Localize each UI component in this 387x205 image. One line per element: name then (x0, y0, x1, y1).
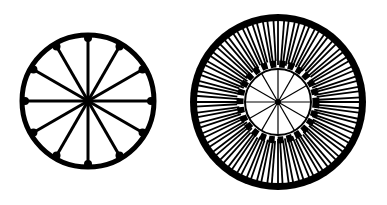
spoke-joint (139, 129, 147, 137)
spoke-joint (116, 152, 124, 160)
spoke-joint (29, 129, 37, 137)
spoke-joint (53, 42, 61, 50)
spoke-joint (21, 97, 29, 105)
spoke-joint (84, 34, 92, 42)
inner-hub (275, 99, 281, 105)
simple-wheel-figure (21, 34, 155, 168)
dense-wheel-figure (190, 14, 366, 190)
hub (84, 97, 92, 105)
spoke-joint (84, 160, 92, 168)
spoke-joint (147, 97, 155, 105)
spoke-joint (139, 66, 147, 74)
spoke-joint (116, 42, 124, 50)
diagram-canvas (0, 0, 387, 205)
spoke-joint (53, 152, 61, 160)
spoke-joint (29, 66, 37, 74)
